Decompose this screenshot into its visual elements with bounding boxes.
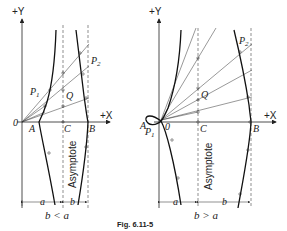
left-diagram: +Y +X 0 A C B P1 P2 Q A	[12, 6, 113, 221]
left-condition: b < a	[45, 209, 69, 221]
right-x-axis-label: +X	[264, 110, 277, 121]
left-x-axis-label: +X	[100, 110, 113, 121]
left-point-c: C	[64, 123, 71, 134]
right-dim-a-label: a	[173, 196, 178, 207]
left-point-a: A	[28, 123, 36, 134]
left-dim-b-label: b	[70, 196, 75, 207]
left-point-p1: P1	[29, 86, 40, 99]
left-point-b: B	[89, 123, 95, 134]
left-y-axis-label: +Y	[12, 6, 25, 17]
right-point-p2: P2	[238, 35, 249, 48]
right-y-axis-label: +Y	[149, 6, 162, 17]
right-asymptote-label: Asymptote	[203, 142, 214, 190]
right-ray	[161, 112, 198, 120]
right-diagram: +Y +X 0 A P1 C B P2 Q A	[139, 6, 277, 221]
figure-canvas: +Y +X 0 A C B P1 P2 Q A	[0, 0, 287, 231]
left-curve-inner	[39, 30, 56, 205]
right-point-q: Q	[201, 89, 209, 100]
left-asymptote-label: Asymptote	[67, 140, 78, 188]
right-point-b: B	[253, 123, 259, 134]
right-origin-label: 0	[165, 121, 170, 132]
right-point-c: C	[200, 123, 207, 134]
figure-caption: Fig. 6.11-5	[117, 220, 153, 229]
left-dim-a-label: a	[40, 196, 45, 207]
left-origin-label: 0	[13, 117, 18, 128]
right-point-p1: P1	[144, 126, 155, 139]
right-ray	[161, 28, 196, 120]
left-point-q: Q	[66, 90, 74, 101]
right-curve-inner	[146, 30, 181, 205]
left-point-p2: P2	[90, 55, 101, 68]
right-condition: b > a	[194, 209, 218, 221]
right-dim-b-label: b	[222, 196, 227, 207]
